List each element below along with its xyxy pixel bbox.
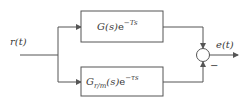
plant-output-line	[163, 27, 203, 48]
plant-transfer-fn: G(s)	[97, 21, 118, 32]
diagram-canvas	[0, 0, 240, 107]
minus-sign: −	[210, 61, 218, 71]
model-subscript: r/m	[94, 82, 106, 90]
plant-exp-power: −Ts	[124, 19, 138, 27]
output-label: e(t)	[216, 40, 234, 50]
block-diagram: r(t) e(t) − G(s)e−Ts Gr/m(s)e−τs	[0, 0, 240, 107]
model-arg: (s)	[106, 76, 119, 87]
model-output-line	[163, 62, 203, 82]
model-block-label: Gr/m(s)e−τs	[86, 75, 139, 90]
plant-block-label: G(s)e−Ts	[97, 20, 137, 32]
model-exp-power: −τs	[125, 74, 138, 82]
model-transfer-fn: G	[86, 76, 94, 87]
summing-junction	[197, 49, 210, 62]
input-label: r(t)	[10, 37, 27, 47]
